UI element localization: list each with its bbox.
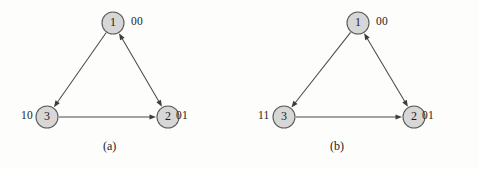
edge-1-to-2-bidirectional (364, 33, 408, 106)
node-label-3: 3 (281, 109, 287, 123)
arrowhead-into-2-horizontal (150, 114, 157, 119)
diagram-panel-b: 1 3 2 00 11 01 (b) (240, 0, 479, 169)
arrowhead-into-1 (364, 33, 370, 40)
graph-b: 1 3 2 (240, 0, 479, 169)
node-label-2: 2 (411, 109, 417, 123)
node-3: 3 (273, 106, 295, 128)
node-3: 3 (36, 106, 58, 128)
nodes-group-b: 1 3 2 (273, 12, 425, 128)
diagram-panel-a: 1 3 2 00 10 01 (a) (0, 0, 239, 169)
edge-line-1-3 (294, 32, 350, 103)
edge-3-to-2 (296, 114, 402, 119)
node-1: 1 (347, 12, 369, 34)
edges-group-b (291, 32, 407, 119)
code-label-node-3: 10 (21, 109, 33, 121)
graph-a: 1 3 2 (0, 0, 239, 169)
node-label-2: 2 (165, 109, 171, 123)
edge-3-to-2 (59, 114, 156, 119)
edge-1-to-2-bidirectional (119, 33, 162, 106)
edge-line-1-2 (367, 38, 406, 103)
code-label-node-2: 01 (422, 109, 434, 121)
code-label-node-1: 00 (376, 15, 388, 27)
arrowhead-into-2-diagonal (402, 100, 408, 107)
node-label-1: 1 (355, 15, 361, 29)
arrowhead-into-3 (54, 100, 60, 107)
code-label-node-1: 00 (131, 15, 143, 27)
code-label-node-3: 11 (258, 109, 270, 121)
nodes-group-a: 1 3 2 (36, 12, 179, 128)
edge-line-1-3 (57, 33, 106, 103)
edge-1-to-3 (54, 33, 106, 107)
arrowhead-into-2-horizontal (396, 114, 403, 119)
edges-group-a (54, 33, 162, 120)
panel-caption-a: (a) (103, 139, 116, 154)
figure-root: 1 3 2 00 10 01 (a) (0, 0, 479, 169)
node-label-3: 3 (44, 109, 50, 123)
arrowhead-into-1 (119, 33, 125, 40)
edge-line-1-2 (122, 38, 160, 103)
arrowhead-into-2-diagonal (156, 100, 162, 107)
edge-1-to-3 (291, 32, 350, 107)
code-label-node-2: 01 (176, 109, 188, 121)
node-label-1: 1 (110, 15, 116, 29)
panel-caption-b: (b) (330, 139, 344, 154)
node-1: 1 (102, 12, 124, 34)
